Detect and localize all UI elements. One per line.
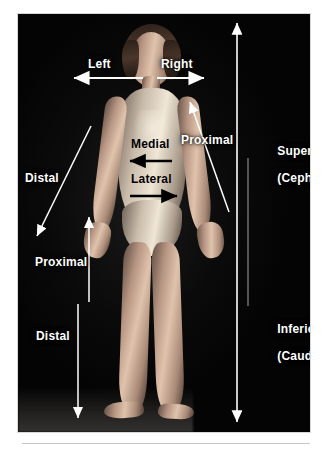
label-superior: Superior (Cephalic) <box>256 132 310 199</box>
foot-right <box>158 403 195 420</box>
label-inferior-line2: (Caudal) <box>277 349 310 363</box>
foot-left <box>103 401 144 420</box>
label-lateral: Lateral <box>131 173 172 186</box>
hand-right <box>195 220 227 260</box>
leg-right <box>151 242 185 411</box>
label-superior-line2: (Cephalic) <box>277 171 310 185</box>
label-inferior: Inferior (Caudal) <box>256 310 310 377</box>
bottom-divider-rule <box>22 443 310 444</box>
label-superior-line1: Superior <box>277 144 310 158</box>
label-proximal-arm: Proximal <box>181 134 233 147</box>
label-inferior-line1: Inferior <box>277 322 310 336</box>
leg-left <box>118 242 152 411</box>
label-left: Left <box>88 58 111 71</box>
hand-left <box>81 220 113 260</box>
label-distal-leg: Distal <box>36 330 70 343</box>
label-distal-arm: Distal <box>25 172 59 185</box>
label-medial: Medial <box>131 138 170 151</box>
label-proximal-leg: Proximal <box>35 256 87 269</box>
photo-panel: Left Right Medial Lateral Distal Proxima… <box>18 14 310 432</box>
label-right: Right <box>161 58 193 71</box>
anatomy-figure-root: Left Right Medial Lateral Distal Proxima… <box>0 0 326 453</box>
